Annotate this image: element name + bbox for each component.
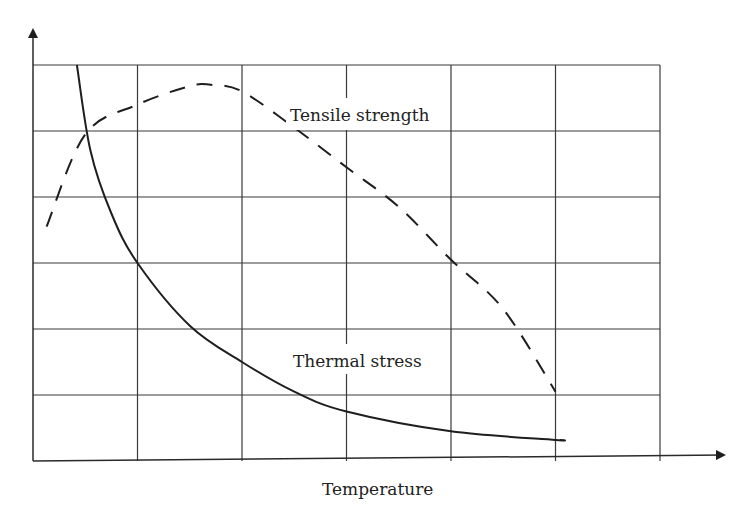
tensile-strength-label: Tensile strength [290, 105, 429, 125]
annotations: Tensile strength Thermal stress Temperat… [286, 98, 433, 499]
axes [33, 30, 724, 461]
x-axis [33, 455, 724, 461]
thermal-stress-label: Thermal stress [293, 351, 422, 371]
chart-area: Tensile strength Thermal stress Temperat… [0, 0, 748, 520]
x-axis-label: Temperature [322, 479, 433, 499]
